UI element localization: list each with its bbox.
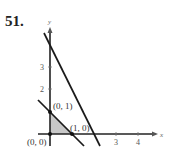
x-axis-arrow-icon: [152, 132, 158, 137]
point-origin: [48, 132, 52, 136]
y-axis-label: y: [47, 18, 52, 26]
point-label-1-0: (1, 0): [70, 123, 90, 133]
point-0-1: [48, 110, 52, 114]
y-tick-label-3: 3: [40, 63, 44, 72]
x-tick-label-4: 4: [136, 138, 140, 147]
y-tick-label-2: 2: [40, 85, 44, 94]
x-tick-label-3: 3: [114, 138, 118, 147]
linear-programming-graph: x y 2 3 3 4 (0, 0) (0, 1) (1, 0): [0, 0, 193, 155]
point-label-0-1: (0, 1): [53, 101, 73, 111]
y-axis-arrow-icon: [48, 27, 53, 33]
point-label-origin: (0, 0): [27, 137, 47, 147]
x-axis-label: x: [159, 131, 164, 139]
